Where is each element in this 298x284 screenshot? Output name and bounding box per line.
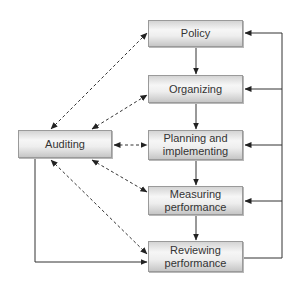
node-policy: Policy [148, 20, 243, 47]
arrow-auditing-reviewing [35, 158, 147, 262]
node-label: Reviewing performance [165, 244, 227, 270]
node-label: Auditing [45, 138, 85, 151]
node-planning-and-implementing: Planning and implementing [148, 130, 243, 160]
node-label: Measuring performance [165, 188, 227, 214]
dashed-auditing-measuring [92, 160, 147, 192]
dashed-auditing-organizing [92, 95, 147, 129]
node-label: Organizing [169, 83, 222, 96]
node-measuring-performance: Measuring performance [148, 186, 243, 215]
node-reviewing-performance: Reviewing performance [148, 241, 243, 272]
node-auditing: Auditing [18, 130, 112, 158]
node-label: Policy [181, 27, 210, 40]
dashed-auditing-policy [51, 33, 147, 129]
node-label: Planning and implementing [163, 132, 228, 158]
dashed-auditing-reviewing [51, 160, 147, 254]
node-organizing: Organizing [148, 75, 243, 103]
